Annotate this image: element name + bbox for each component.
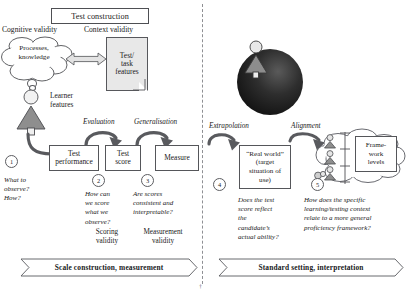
test-score-text: Test score [115, 150, 131, 165]
step-4-question: Does the test score reflect the candidat… [238, 196, 292, 242]
document-text: Test/ task features [115, 52, 138, 77]
scale-construction-banner-label: Scale construction, measurement [21, 259, 197, 276]
test-performance-box: Test performance [49, 145, 99, 171]
person-figure-on-globe-icon [244, 40, 272, 78]
test-score-box: Test score [105, 145, 141, 171]
step-5-question: How does the specific learning/testing c… [304, 196, 402, 233]
step-1-question: What to observe? How? [4, 176, 52, 204]
step-2-question: How can we score what we observe? [85, 190, 131, 227]
standard-setting-banner: Standard setting, interpretation [219, 259, 403, 276]
step-5-number-text: 5 [316, 181, 319, 188]
generalisation-label: Generalisation [134, 118, 177, 126]
test-performance-line-2: performance [55, 158, 92, 166]
vertical-scale-icon [340, 132, 350, 184]
document-fold-line [133, 79, 147, 92]
diagram-canvas: Test construction Cognitive validity Con… [0, 0, 406, 292]
step-number-4: 4 [213, 178, 226, 191]
step-number-2: 2 [92, 174, 105, 187]
step-4-number-text: 4 [218, 181, 221, 188]
thought-cloud-line-2: knowledge [3, 53, 65, 62]
double-headed-arrow-icon [66, 52, 106, 66]
step-2-number-text: 2 [97, 177, 100, 184]
scale-construction-banner: Scale construction, measurement [21, 259, 197, 276]
test-score-line-2: score [115, 158, 131, 166]
test-construction-label: Test construction [71, 12, 129, 21]
scoring-validity-label: Scoring validity [85, 228, 129, 246]
step-1-number-text: 1 [10, 158, 13, 165]
learner-line-2: features [50, 100, 73, 109]
cloud-figure-top-icon [323, 134, 337, 149]
standard-setting-banner-label: Standard setting, interpretation [219, 259, 403, 276]
person-figure-icon [18, 89, 50, 135]
real-world-text: “Real world” (target situation of use) [246, 150, 284, 185]
step-number-5: 5 [311, 178, 324, 191]
vertical-divider [202, 4, 203, 284]
measure-label: Measure [164, 154, 189, 162]
measurement-validity-label: Measurement validity [131, 228, 195, 246]
step-3-number-text: 3 [146, 177, 149, 184]
document-line-3: features [115, 68, 138, 76]
real-world-box: “Real world” (target situation of use) [239, 145, 291, 189]
step-number-1: 1 [5, 155, 18, 168]
cloud-figure-middle-icon [323, 150, 337, 165]
framework-levels-text: Frame- work levels [366, 141, 387, 167]
test-construction-header: Test construction [51, 8, 149, 24]
thought-cloud-text: Processes, knowledge [3, 44, 65, 62]
step-3-question: Are scores consistent and interpretable? [133, 190, 193, 218]
context-validity-label: Context validity [84, 25, 133, 34]
thought-cloud-line-1: Processes, [3, 44, 65, 53]
learner-line-1: Learner [50, 91, 73, 100]
measure-box: Measure [155, 145, 199, 171]
footer-mark: † [199, 283, 202, 289]
test-performance-text: Test performance [55, 150, 92, 165]
curved-arrow-extrapolation [207, 131, 243, 153]
evaluation-label: Evaluation [83, 118, 115, 126]
step-number-3: 3 [141, 174, 154, 187]
extrapolation-label: Extrapolation [209, 122, 249, 130]
learner-features-label: Learner features [50, 91, 73, 109]
framework-levels-box: Frame- work levels [355, 136, 397, 172]
